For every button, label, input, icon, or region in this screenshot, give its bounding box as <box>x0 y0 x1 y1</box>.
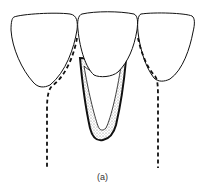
right-tooth-crown <box>138 13 195 81</box>
left-tooth-crown <box>11 13 77 87</box>
teeth-diagram <box>0 0 205 192</box>
figure-caption: (a) <box>0 172 205 182</box>
